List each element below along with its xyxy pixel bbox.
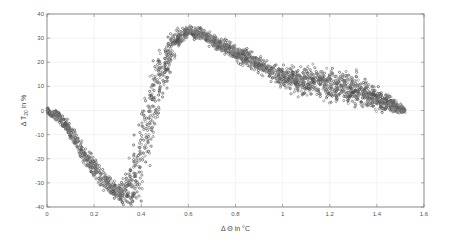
y-tick-label: 0 bbox=[41, 108, 45, 114]
x-tick-label: 0 bbox=[45, 211, 49, 217]
x-axis-label: Δ Θ in °C bbox=[221, 225, 250, 232]
y-axis-label: Δ T20 in % bbox=[20, 95, 29, 127]
y-tick-label: 20 bbox=[37, 59, 44, 65]
x-tick-label: 1 bbox=[281, 211, 285, 217]
y-tick-label: -40 bbox=[35, 204, 44, 210]
x-tick-label: 0.8 bbox=[231, 211, 240, 217]
x-tick-label: 0.6 bbox=[184, 211, 193, 217]
x-tick-label: 1.6 bbox=[420, 211, 429, 217]
x-tick-label: 0.2 bbox=[90, 211, 99, 217]
y-tick-label: 40 bbox=[37, 11, 44, 17]
data-points bbox=[46, 25, 406, 207]
y-tick-label: 30 bbox=[37, 35, 44, 41]
y-tick-label: -10 bbox=[35, 132, 44, 138]
y-tick-label: -30 bbox=[35, 180, 44, 186]
y-axis-label-tail: in % bbox=[20, 95, 27, 111]
y-tick-label: 10 bbox=[37, 83, 44, 89]
scatter-chart: 00.20.40.60.811.21.41.6 -40-30-20-100102… bbox=[0, 0, 449, 251]
x-tick-label: 1.4 bbox=[373, 211, 382, 217]
x-tick-label: 1.2 bbox=[326, 211, 335, 217]
y-tick-label: -20 bbox=[35, 156, 44, 162]
x-tick-label: 0.4 bbox=[137, 211, 146, 217]
